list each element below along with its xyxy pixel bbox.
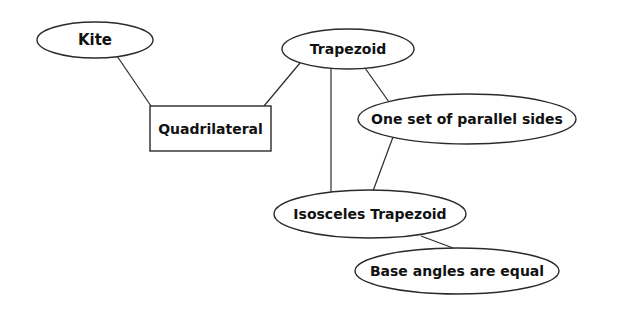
isosceles-trapezoid-label: Isosceles Trapezoid: [293, 206, 446, 222]
node-isosceles-trapezoid: Isosceles Trapezoid: [274, 190, 466, 238]
base-angles-equal-label: Base angles are equal: [370, 263, 544, 279]
node-base-angles-equal: Base angles are equal: [355, 248, 559, 294]
node-kite: Kite: [37, 22, 153, 58]
kite-label: Kite: [78, 31, 112, 49]
edge-isosceles-trapezoid-base-angles-equal: [421, 236, 453, 248]
edge-trapezoid-one-set-parallel-sides: [365, 68, 389, 102]
edge-kite-quadrilateral: [117, 56, 151, 106]
node-quadrilateral: Quadrilateral: [150, 106, 271, 151]
edge-one-set-parallel-sides-isosceles-trapezoid: [373, 137, 393, 191]
node-one-set-parallel-sides: One set of parallel sides: [358, 94, 576, 144]
quadrilateral-label: Quadrilateral: [158, 121, 263, 137]
concept-map-canvas: Kite Quadrilateral Trapezoid One set of …: [0, 0, 618, 316]
one-set-parallel-sides-label: One set of parallel sides: [371, 111, 563, 127]
edge-quadrilateral-trapezoid: [264, 63, 300, 106]
trapezoid-label: Trapezoid: [310, 41, 386, 57]
node-trapezoid: Trapezoid: [282, 29, 414, 69]
